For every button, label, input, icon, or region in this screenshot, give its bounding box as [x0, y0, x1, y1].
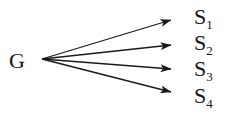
sink-node-subscript: 1 — [206, 17, 213, 32]
source-node-label: G — [9, 48, 25, 73]
sink-node-s2: S2 — [194, 32, 213, 57]
sink-node-label: S — [194, 4, 206, 29]
sink-node-subscript: 3 — [206, 69, 213, 84]
sink-node-label: S — [194, 30, 206, 55]
sink-node-s1: S1 — [194, 6, 213, 31]
sink-node-label: S — [194, 83, 206, 108]
edge-g-to-s2 — [42, 45, 171, 59]
fan-out-diagram: G S1 S2 S3 S4 — [0, 0, 226, 123]
sink-node-s4: S4 — [194, 85, 213, 110]
edges-layer — [0, 0, 226, 123]
edge-g-to-s1 — [42, 20, 171, 59]
source-node-g: G — [9, 50, 25, 72]
sink-node-subscript: 4 — [206, 96, 213, 111]
sink-node-subscript: 2 — [206, 43, 213, 58]
sink-node-s3: S3 — [194, 58, 213, 83]
sink-node-label: S — [194, 56, 206, 81]
